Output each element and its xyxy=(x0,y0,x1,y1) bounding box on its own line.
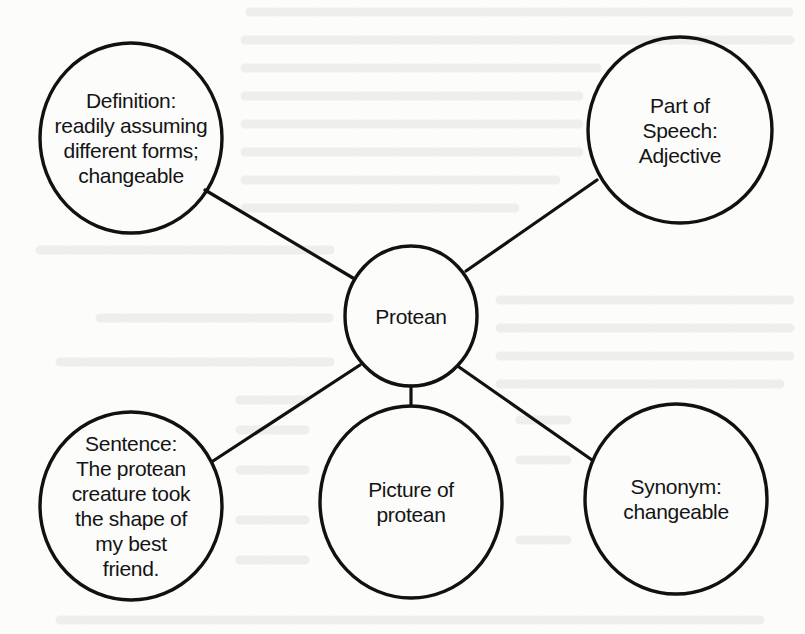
node-definition: Definition: readily assuming different f… xyxy=(40,43,222,233)
node-picture: Picture of protean xyxy=(320,406,502,598)
node-part-of-speech: Part of Speech: Adjective xyxy=(588,37,772,223)
node-sentence: Sentence: The protean creature took the … xyxy=(40,412,222,600)
connector-protean-part-of-speech xyxy=(466,180,597,271)
node-picture-label: Picture of protean xyxy=(368,477,454,527)
center-node-protean: Protean xyxy=(345,246,477,386)
node-part-of-speech-label: Part of Speech: Adjective xyxy=(639,93,722,168)
node-definition-label: Definition: readily assuming different f… xyxy=(55,88,208,188)
node-sentence-label: Sentence: The protean creature took the … xyxy=(72,431,191,581)
diagram-page: Protean Definition: readily assuming dif… xyxy=(0,0,805,634)
node-synonym-label: Synonym: changeable xyxy=(623,474,729,524)
connector-protean-definition xyxy=(205,190,353,278)
node-synonym: Synonym: changeable xyxy=(585,404,767,594)
center-node-label: Protean xyxy=(375,304,446,329)
